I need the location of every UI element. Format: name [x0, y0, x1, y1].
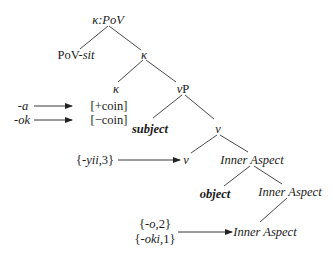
morpheme-o: {-o,2} — [139, 218, 171, 231]
node-inner-aspect-1: Inner Aspect — [220, 154, 283, 167]
node-root-head: PoV — [102, 13, 124, 27]
node-pov-sit-prefix: PoV- — [57, 48, 82, 62]
morpheme-o-close: ,2} — [156, 217, 171, 231]
morpheme-oki-morph: oki — [145, 232, 160, 246]
branch-innerasp-to-innerasp2 — [254, 166, 282, 184]
branch-vbar-to-innerasp — [220, 135, 248, 152]
node-pov-sit-suffix: sit — [83, 48, 95, 62]
branch-vbar-to-vhead — [191, 135, 217, 153]
node-vp: νP — [177, 83, 190, 96]
branch-root-to-kappa — [109, 26, 141, 50]
morpheme-yii: {-yii,3} — [76, 154, 114, 167]
morpheme-oki-open: {- — [135, 232, 145, 246]
branch-vp-to-subject — [153, 95, 182, 118]
morpheme-yii-close: ,3} — [99, 153, 114, 167]
feature-coin-minus: [−coin] — [91, 114, 128, 127]
feature-coin-plus: [+coin] — [91, 100, 128, 113]
morpheme-oki: {-oki,1} — [135, 233, 176, 246]
morpheme-yii-open: {- — [76, 153, 86, 167]
branch-kappa-to-kappahead — [118, 60, 143, 82]
branch-innerasp2-to-innerasp3 — [260, 198, 287, 222]
branch-kappa-to-vp — [146, 60, 176, 82]
node-vp-suffix: P — [182, 82, 189, 96]
node-v-bar: ν — [215, 123, 221, 136]
node-subject: subject — [132, 123, 168, 136]
node-inner-aspect-3: Inner Aspect — [233, 226, 296, 239]
node-kappa-bar: κ — [141, 49, 147, 62]
node-object: object — [200, 188, 231, 201]
branch-vp-to-vbar — [185, 95, 214, 119]
morpheme-yii-morph: yii — [86, 153, 99, 167]
node-pov-sit: PoV-sit — [57, 49, 94, 62]
morpheme-a: -a — [18, 100, 28, 113]
node-inner-aspect-2: Inner Aspect — [258, 186, 321, 199]
morpheme-oki-close: ,1} — [160, 232, 175, 246]
morpheme-o-open: {- — [139, 217, 149, 231]
node-v-head: ν — [183, 154, 189, 167]
node-root: κ:PoV — [92, 14, 124, 27]
node-kappa-head: κ — [113, 83, 119, 96]
node-root-prefix: κ: — [92, 13, 102, 27]
branch-root-to-povsit — [80, 26, 108, 49]
branch-innerasp-to-object — [224, 166, 250, 186]
morpheme-ok: -ok — [14, 114, 30, 127]
